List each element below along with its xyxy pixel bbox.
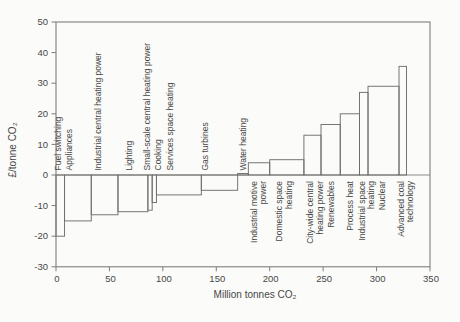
bar-label-fuel-switching: Fuel switching <box>53 116 63 170</box>
bar-label-process-heat: Process heat <box>345 180 355 230</box>
y-tick-label-0: 0 <box>43 169 48 180</box>
y-axis-title: £/tonne CO₂ <box>7 122 18 177</box>
abatement-cost-chart: 50403020100-10-20-3005010015020025030035… <box>0 0 460 322</box>
bar-label-industrial-motive-power-line2: power <box>258 181 268 204</box>
x-tick-label-300: 300 <box>370 273 386 284</box>
bar-label-gas-turbines: Gas turbines <box>200 122 210 170</box>
y-tick-label--20: -20 <box>34 230 48 241</box>
bar-label-lighting: Lighting <box>124 140 134 170</box>
x-tick-label-350: 350 <box>423 273 439 284</box>
x-tick-label-250: 250 <box>316 273 332 284</box>
y-tick-label-40: 40 <box>37 47 48 58</box>
bar-label-cooking: Cooking <box>153 139 163 170</box>
bar-label-industrial-central-heating-power: Industrial central heating power <box>93 52 103 170</box>
bar-label-water-heating: Water heating <box>238 118 248 171</box>
bar-label-industrial-space-heating-line2: heating <box>366 181 376 209</box>
x-tick-label-100: 100 <box>156 273 172 284</box>
x-tick-label-0: 0 <box>54 273 59 284</box>
x-tick-label-150: 150 <box>209 273 225 284</box>
x-tick-label-200: 200 <box>263 273 279 284</box>
bar-label-nuclear: Nuclear <box>377 181 387 210</box>
abatement-cost-figure: 50403020100-10-20-3005010015020025030035… <box>0 0 460 322</box>
x-axis-title: Million tonnes CO₂ <box>214 289 297 300</box>
bar-label-domestic-space-heating-line2: heating <box>284 181 294 209</box>
bar-label-advanced-coal-technology-line2: technology <box>405 180 415 222</box>
bar-label-appliances: Appliances <box>64 129 74 171</box>
x-tick-label-50: 50 <box>105 273 116 284</box>
y-tick-label--30: -30 <box>34 261 48 272</box>
bar-label-city-wide-central-heating-power-line2: heating power <box>315 181 325 235</box>
y-tick-label-30: 30 <box>37 77 48 88</box>
y-tick-label-20: 20 <box>37 108 48 119</box>
y-tick-label-50: 50 <box>37 16 48 27</box>
bar-label-small-scale-central-heating-power: Small-scale central heating power <box>142 43 152 171</box>
bar-label-services-space-heating: Services space heating <box>165 82 175 170</box>
y-tick-label-10: 10 <box>37 139 48 150</box>
y-tick-label--10: -10 <box>34 200 48 211</box>
bar-label-renewables: Renewables <box>326 181 336 228</box>
